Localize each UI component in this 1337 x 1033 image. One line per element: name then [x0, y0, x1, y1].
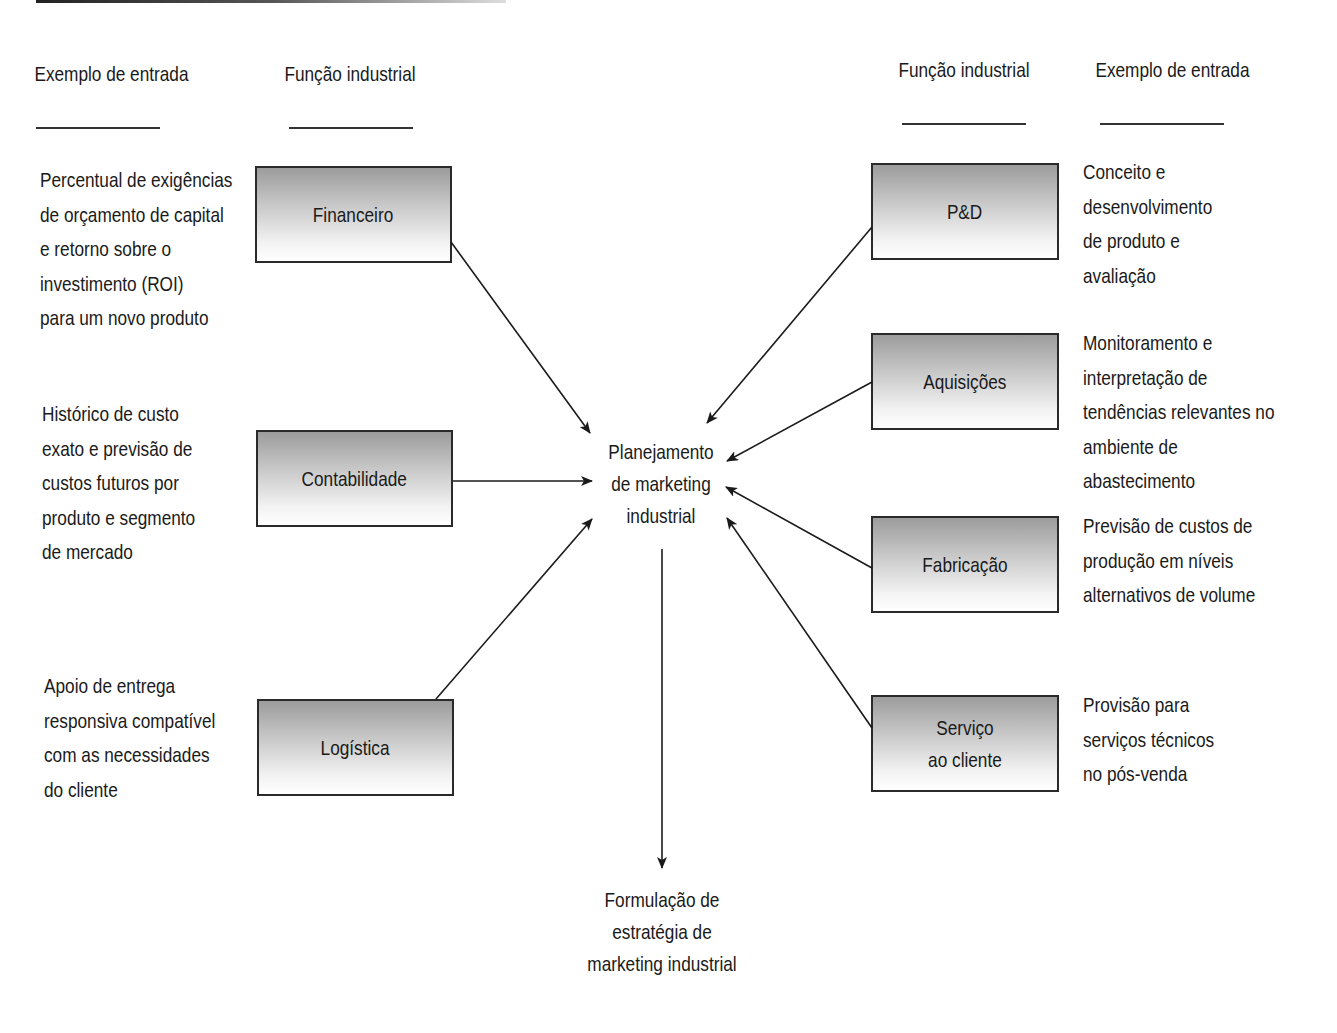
example-pd: Conceito e desenvolvimento de produto e … [1083, 155, 1212, 293]
output-formulacao: Formulação de estratégia de marketing in… [580, 884, 744, 980]
arrow-servico-cliente [727, 518, 872, 728]
box-servico-cliente-label: Serviço ao cliente [928, 712, 1002, 776]
box-pd: P&D [871, 163, 1059, 260]
box-pd-label: P&D [947, 196, 982, 228]
header-left-function: Função industrial [284, 60, 415, 87]
header-right-example: Exemplo de entrada [1095, 56, 1226, 83]
arrow-financeiro [451, 242, 590, 433]
example-fabricacao: Previsão de custos de produção em níveis… [1083, 509, 1255, 613]
example-financeiro: Percentual de exigências de orçamento de… [40, 163, 232, 336]
header-left-example-rule [36, 127, 160, 129]
box-fabricacao: Fabricação [871, 516, 1059, 613]
arrow-logistica [436, 519, 592, 699]
example-logistica: Apoio de entrega responsiva compatível c… [44, 669, 215, 807]
arrow-pd [707, 227, 872, 423]
example-aquisicoes: Monitoramento e interpretação de tendênc… [1083, 326, 1291, 499]
box-fabricacao-label: Fabricação [922, 549, 1007, 581]
box-servico-cliente: Serviço ao cliente [871, 695, 1059, 792]
arrow-aquisicoes [727, 382, 872, 461]
header-right-function: Função industrial [898, 56, 1029, 83]
box-logistica: Logística [257, 699, 454, 796]
box-logistica-label: Logística [321, 732, 390, 764]
box-aquisicoes: Aquisições [871, 333, 1059, 430]
top-rule [36, 0, 506, 3]
box-financeiro: Financeiro [255, 166, 452, 263]
example-contabilidade: Histórico de custo exato e previsão de c… [42, 397, 195, 570]
header-right-function-rule [902, 123, 1026, 125]
header-left-function-rule [289, 127, 413, 129]
center-planejamento: Planejamento de marketing industrial [591, 436, 730, 532]
box-contabilidade: Contabilidade [256, 430, 453, 527]
box-financeiro-label: Financeiro [313, 199, 393, 231]
box-aquisicoes-label: Aquisições [923, 366, 1006, 398]
arrow-fabricacao [726, 487, 872, 568]
header-left-example: Exemplo de entrada [34, 60, 165, 87]
box-contabilidade-label: Contabilidade [302, 463, 407, 495]
example-servico-cliente: Provisão para serviços técnicos no pós-v… [1083, 688, 1214, 792]
header-right-example-rule [1100, 123, 1224, 125]
